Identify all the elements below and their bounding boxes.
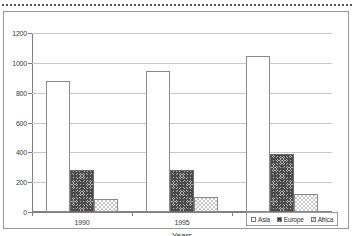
x-tick-label-1995: 1995 [175,219,190,226]
x-tick-mark-1995 [232,212,233,216]
legend-swatch-europe-icon [277,217,282,222]
top-dotted-separator [2,4,352,6]
y-tick-mark-200 [28,182,32,183]
legend-label-asia: Asia [258,216,270,223]
bar-group-1999 [246,33,318,212]
x-axis-title: Years [32,231,332,236]
chart-legend[interactable]: AsiaEuropeAfrica [246,212,338,226]
y-tick-label-1000: 1000 [12,59,27,66]
legend-entry-asia[interactable]: Asia [251,216,270,223]
legend-label-europe: Europe [284,216,304,223]
y-tick-mark-1200 [28,33,32,34]
bar-europe-1999[interactable] [270,154,294,212]
bar-africa-1999[interactable] [294,194,318,212]
bar-europe-1995[interactable] [170,170,194,212]
legend-swatch-asia-icon [251,217,256,222]
y-tick-mark-600 [28,123,32,124]
y-tick-label-1200: 1200 [12,30,27,37]
legend-entry-europe[interactable]: Europe [277,216,304,223]
bar-africa-1995[interactable] [194,197,218,212]
y-tick-label-400: 400 [16,149,27,156]
x-tick-mark-origin [32,212,33,216]
legend-label-africa: Africa [318,216,333,223]
x-tick-label-1990: 1990 [75,219,90,226]
bar-group-1995 [146,33,218,212]
x-tick-mark-1990 [132,212,133,216]
y-tick-label-200: 200 [16,179,27,186]
legend-entry-africa[interactable]: Africa [311,216,333,223]
bar-asia-1990[interactable] [46,81,70,212]
bar-asia-1995[interactable] [146,71,170,212]
y-tick-label-800: 800 [16,89,27,96]
y-tick-label-600: 600 [16,119,27,126]
bar-europe-1990[interactable] [70,170,94,213]
plot-area: 020040060080010001200 199019951999 Years [32,33,332,212]
legend-swatch-africa-icon [311,217,316,222]
y-tick-label-0: 0 [23,209,27,216]
y-tick-mark-800 [28,93,32,94]
y-tick-mark-400 [28,152,32,153]
bar-asia-1999[interactable] [246,56,270,212]
chart-frame: 020040060080010001200 199019951999 Years [3,11,349,229]
bar-africa-1990[interactable] [94,199,118,212]
bar-group-1990 [46,33,118,212]
y-tick-mark-1000 [28,63,32,64]
